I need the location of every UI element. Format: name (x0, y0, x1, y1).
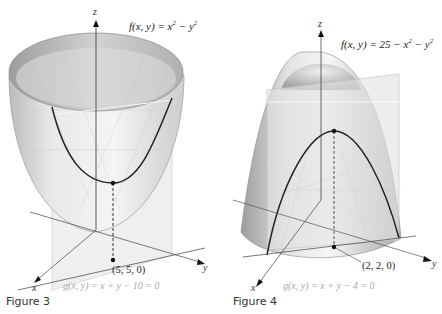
constraint-label: g(x, y) = x + y − 10 = 0 (63, 280, 159, 291)
z-axis-label: z (93, 6, 97, 17)
y-axis-label: y (432, 258, 436, 269)
function-label: f(x, y) = 25 − x2 − y2 (341, 37, 433, 50)
max-point (332, 129, 336, 133)
figure-caption: Figure 3 (6, 295, 50, 308)
min-point (111, 181, 115, 185)
constraint-label: g(x, y) = x + y − 4 = 0 (283, 280, 374, 291)
figure-caption: Figure 4 (233, 295, 277, 308)
z-axis-label: z (318, 18, 322, 29)
y-axis-label: y (203, 262, 207, 273)
figure-4: z y x f(x, y) = 25 − x2 − y2 (2, 2, 0) g… (221, 0, 442, 314)
x-axis-label: x (32, 282, 36, 293)
base-point (111, 258, 115, 262)
function-label: f(x, y) = x2 − y2 (129, 19, 197, 32)
constraint-plane (267, 74, 399, 250)
x-axis-label: x (251, 282, 255, 293)
figure-3-graphic (0, 0, 221, 314)
base-point (332, 245, 336, 249)
point-label: (5, 5, 0) (112, 264, 145, 275)
point-label: (2, 2, 0) (362, 260, 395, 271)
figure-3: z y x f(x, y) = x2 − y2 (5, 5, 0) g(x, y… (0, 0, 221, 314)
